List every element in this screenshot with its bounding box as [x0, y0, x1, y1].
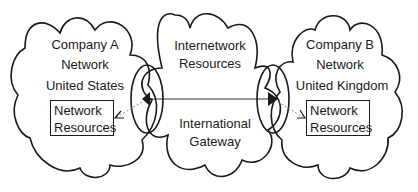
company-a-title: Company A	[45, 36, 125, 53]
company-a-subtitle: Network	[45, 56, 125, 73]
dotted-arrow-right	[278, 102, 303, 117]
network-diagram: Company A Network United States Network …	[0, 0, 418, 192]
company-a-resources-line2: Resources	[54, 119, 110, 136]
internetwork-subtitle: Resources	[170, 55, 250, 72]
company-b-resources-line2: Resources	[310, 119, 366, 136]
company-b-title: Company B	[300, 36, 380, 53]
company-a-resources-box: Network Resources	[50, 100, 114, 136]
arrowhead-right-icon	[297, 110, 305, 118]
company-b-location: United Kingdom	[292, 77, 392, 94]
company-b-resources-box: Network Resources	[306, 100, 370, 136]
diagram-graphics	[0, 0, 418, 192]
gateway-title: International	[170, 115, 260, 132]
gateway-subtitle: Gateway	[170, 133, 260, 150]
company-b-subtitle: Network	[300, 56, 380, 73]
internetwork-title: Internetwork	[170, 37, 250, 54]
company-b-resources-line1: Network	[310, 102, 366, 119]
company-a-location: United States	[40, 77, 130, 94]
company-a-resources-line1: Network	[54, 102, 110, 119]
